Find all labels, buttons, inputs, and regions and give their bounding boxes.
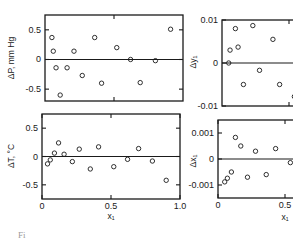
y-tick-label: 0 xyxy=(33,152,38,162)
data-point xyxy=(72,49,76,53)
data-point xyxy=(50,35,54,39)
data-point xyxy=(233,26,237,30)
data-point xyxy=(273,146,277,150)
data-point xyxy=(92,35,96,39)
data-point xyxy=(52,151,56,155)
y-tick-label: -0.01 xyxy=(197,101,218,111)
data-point xyxy=(88,167,92,171)
y-tick-label: 0 xyxy=(36,54,41,64)
y-tick-label: 0.5 xyxy=(28,25,41,35)
x-tick-label: 0 xyxy=(215,200,220,210)
y-axis-label: Δy₁ xyxy=(188,55,198,68)
data-point xyxy=(51,49,55,53)
data-point xyxy=(229,170,233,174)
data-point xyxy=(277,82,281,86)
data-point xyxy=(70,159,74,163)
data-point xyxy=(48,158,52,162)
y-tick-label: 0.001 xyxy=(191,128,214,138)
y-tick-label: 0 xyxy=(209,154,214,164)
data-point xyxy=(62,152,66,156)
panel-delta-y1: 0.010-0.01Δy₁ xyxy=(188,15,305,111)
data-point xyxy=(233,135,237,139)
data-point xyxy=(150,159,154,163)
y-tick-label: -0.5 xyxy=(22,180,38,190)
data-point xyxy=(253,149,257,153)
panel-delta-x1: 0.0010-0.00100.5Δx₁x₁ xyxy=(188,120,305,222)
data-point xyxy=(112,165,116,169)
figure: 0.50-0.5ΔP, mm Hg 0.50-0.500.51.0ΔT, °Cx… xyxy=(0,0,305,241)
data-point xyxy=(65,66,69,70)
x-tick-label: 0 xyxy=(39,201,44,211)
data-point xyxy=(56,141,60,145)
data-point xyxy=(225,176,229,180)
data-point xyxy=(45,162,49,166)
data-point xyxy=(138,80,142,84)
data-point xyxy=(264,172,268,176)
y-tick-label: -0.001 xyxy=(188,180,214,190)
x-tick-label: 1.0 xyxy=(174,201,187,211)
data-point xyxy=(168,27,172,31)
data-point xyxy=(257,68,261,72)
data-point xyxy=(245,175,249,179)
data-point xyxy=(96,145,100,149)
data-point xyxy=(54,66,58,70)
y-axis-label: ΔP, mm Hg xyxy=(6,37,16,80)
y-tick-label: 0.5 xyxy=(25,123,38,133)
data-point xyxy=(236,45,240,49)
data-point xyxy=(136,146,140,150)
data-point xyxy=(77,147,81,151)
data-point xyxy=(228,48,232,52)
x-tick-label: 0.5 xyxy=(279,200,292,210)
figure-caption: Fi xyxy=(18,230,26,240)
x-axis-label: x₁ xyxy=(281,212,288,222)
data-point xyxy=(271,37,275,41)
page-edge xyxy=(293,0,305,241)
data-point xyxy=(115,45,119,49)
y-tick-label: -0.5 xyxy=(25,84,41,94)
data-point xyxy=(164,178,168,182)
y-axis-label: Δx₁ xyxy=(188,154,198,167)
data-point xyxy=(80,73,84,77)
panel-delta-t: 0.50-0.500.51.0ΔT, °Cx₁ xyxy=(6,114,186,221)
x-tick-label: 0.5 xyxy=(105,201,118,211)
x-axis-label: x₁ xyxy=(107,211,114,221)
y-tick-label: 0 xyxy=(213,58,218,68)
data-point xyxy=(241,82,245,86)
data-point xyxy=(239,144,243,148)
data-point xyxy=(125,157,129,161)
data-point xyxy=(251,23,255,27)
data-point xyxy=(58,93,62,97)
data-point xyxy=(99,81,103,85)
panel-delta-p: 0.50-0.5ΔP, mm Hg xyxy=(6,15,183,101)
y-axis-label: ΔT, °C xyxy=(6,144,16,168)
y-tick-label: 0.01 xyxy=(200,15,218,25)
data-point xyxy=(288,160,292,164)
plot-frame xyxy=(45,15,183,101)
